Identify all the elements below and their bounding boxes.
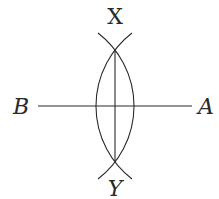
label-x: X	[107, 4, 123, 29]
label-a: A	[196, 94, 214, 119]
label-b: B	[12, 94, 29, 119]
perpendicular-bisector-diagram: X Y B A	[0, 0, 219, 199]
label-y: Y	[108, 176, 125, 199]
